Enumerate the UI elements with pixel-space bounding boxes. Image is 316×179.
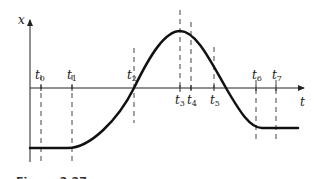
label-t3: t3	[175, 93, 185, 108]
vertical-axis-label: x	[18, 13, 25, 27]
position-curve	[30, 31, 298, 148]
label-t7: t7	[272, 68, 282, 83]
label-t1: t1	[67, 68, 77, 83]
label-t5: t5	[210, 93, 220, 108]
position-time-diagram: x t t0 t1 t2 t3 t4 t5 t6 t7 Figure 2.27	[0, 0, 316, 179]
horizontal-axis-label: t	[300, 95, 305, 109]
figure-caption: Figure 2.27	[16, 175, 87, 179]
label-t2: t2	[127, 68, 137, 83]
time-mark-lines	[41, 10, 276, 163]
label-t4: t4	[187, 93, 197, 108]
label-t6: t6	[252, 68, 262, 83]
label-t0: t0	[35, 68, 45, 83]
